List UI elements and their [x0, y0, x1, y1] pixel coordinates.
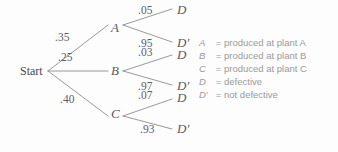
legend-description-dprime: not defective [224, 89, 335, 100]
legend-symbol-a: A [199, 37, 213, 48]
prob-start-b: .25 [58, 52, 72, 64]
legend-equals-d: = [213, 76, 224, 87]
legend-description-c: produced at plant C [224, 63, 335, 74]
legend-row-b: B = produced at plant B [199, 50, 335, 63]
legend-equals-c: = [213, 63, 224, 74]
node-d-from-c: D [177, 91, 186, 104]
legend-row-a: A = produced at plant A [199, 37, 335, 50]
legend-row-c: C = produced at plant C [199, 63, 335, 76]
legend-description-d: defective [224, 76, 335, 87]
prob-start-a: .35 [55, 32, 69, 44]
edge-start-c [48, 71, 108, 116]
node-d-from-a: D [177, 3, 186, 16]
legend-description-b: produced at plant B [224, 50, 335, 61]
node-b: B [111, 64, 119, 77]
prob-a-d: .05 [138, 5, 152, 17]
legend-row-dprime: D′ = not defective [199, 89, 335, 102]
legend-symbol-dprime: D′ [199, 89, 213, 100]
prob-c-dprime: .93 [140, 124, 154, 136]
legend: A = produced at plant A B = produced at … [199, 37, 335, 102]
legend-symbol-c: C [199, 63, 213, 74]
node-dprime-from-c: D′ [177, 122, 189, 135]
legend-equals-a: = [213, 37, 224, 48]
prob-c-d: .07 [138, 90, 152, 102]
legend-description-a: produced at plant A [224, 37, 335, 48]
legend-symbol-d: D [199, 76, 213, 87]
legend-equals-dprime: = [213, 89, 224, 100]
edge-c-d [123, 99, 172, 116]
legend-row-d: D = defective [199, 76, 335, 89]
node-start: Start [20, 65, 43, 77]
legend-symbol-b: B [199, 50, 213, 61]
probability-tree-diagram: Start A B C D D′ D D′ D D′ .35 .25 .40 .… [0, 0, 338, 152]
legend-equals-b: = [213, 50, 224, 61]
prob-start-c: .40 [60, 94, 74, 106]
node-a: A [111, 21, 119, 34]
node-c: C [111, 107, 120, 120]
node-d-from-b: D [177, 48, 186, 61]
prob-b-d: .03 [138, 47, 152, 59]
